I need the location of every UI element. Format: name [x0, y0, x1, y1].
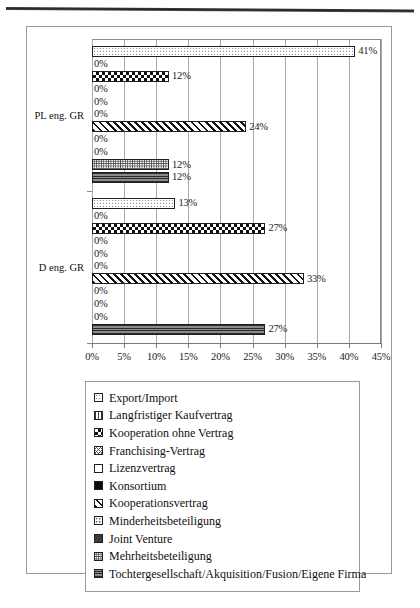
bar[interactable] [92, 71, 169, 82]
bar-row: 0% [92, 311, 381, 322]
legend-item[interactable]: Kooperationsvertrag [94, 495, 353, 513]
category-axis-tick [87, 191, 92, 192]
x-axis-tick-label: 0% [85, 351, 99, 362]
legend-item[interactable]: Konsortium [94, 477, 353, 495]
bar-row: 0% [92, 96, 381, 107]
bar-row: 12% [92, 71, 381, 82]
bar-row: 0% [92, 299, 381, 310]
legend-item[interactable]: Kooperation ohne Vertrag [94, 424, 353, 442]
x-axis-tick [92, 343, 93, 348]
bar-row: 12% [92, 172, 381, 183]
chart-figure-frame: 0%5%10%15%20%25%30%35%40%45% PL eng. GRD… [26, 26, 392, 574]
x-axis-tick [188, 343, 189, 348]
bar-row: 33% [92, 273, 381, 284]
legend-swatch-icon [94, 393, 103, 402]
legend-swatch-icon [94, 428, 103, 437]
legend-swatch-icon [94, 534, 103, 543]
legend-item[interactable]: Export/Import [94, 389, 353, 407]
x-axis-tick [349, 343, 350, 348]
bar-row: 0% [92, 58, 381, 69]
legend-item-label: Tochtergesellschaft/Akquisition/Fusion/E… [109, 568, 366, 580]
legend-item[interactable]: Tochtergesellschaft/Akquisition/Fusion/E… [94, 565, 353, 583]
legend-item-label: Langfristiger Kaufvertrag [109, 409, 233, 421]
legend-swatch-icon [94, 499, 103, 508]
legend-item[interactable]: Minderheitsbeteiligung [94, 512, 353, 530]
value-axis-line [92, 343, 382, 344]
legend-item[interactable]: Langfristiger Kaufvertrag [94, 407, 353, 425]
bar-row: 27% [92, 324, 381, 335]
x-axis-tick-label: 10% [147, 351, 166, 362]
x-axis-tick-label: 15% [179, 351, 198, 362]
bar-value-label: 0% [94, 260, 108, 271]
x-axis-tick-label: 25% [243, 351, 262, 362]
bar[interactable] [92, 172, 169, 183]
bar-row: 27% [92, 223, 381, 234]
bar-row: 41% [92, 46, 381, 57]
bar-value-label: 0% [94, 58, 108, 69]
legend-item-label: Franchising-Vertrag [109, 445, 205, 457]
category-label: D eng. GR [39, 262, 92, 273]
bar-row: 12% [92, 159, 381, 170]
legend-item[interactable]: Mehrheitsbeteiligung [94, 547, 353, 565]
legend-item-label: Kooperationsvertrag [109, 497, 208, 509]
bar-row: 0% [92, 109, 381, 120]
bar-value-label: 0% [94, 108, 108, 119]
bar[interactable] [92, 223, 265, 234]
bar[interactable] [92, 46, 355, 57]
bar-value-label: 0% [94, 83, 108, 94]
x-axis-tick [381, 343, 382, 348]
legend-swatch-icon [94, 481, 103, 490]
legend-swatch-icon [94, 552, 103, 561]
bar-value-label: 0% [94, 96, 108, 107]
legend-item[interactable]: Lizenzvertrag [94, 459, 353, 477]
bar-value-label: 27% [268, 223, 287, 234]
bar-value-label: 0% [94, 298, 108, 309]
x-axis-tick-label: 35% [307, 351, 326, 362]
bar-value-label: 0% [94, 248, 108, 259]
bar-value-label: 12% [172, 71, 191, 82]
legend-item[interactable]: Joint Venture [94, 530, 353, 548]
bar-value-label: 12% [172, 159, 191, 170]
bar-row: 0% [92, 286, 381, 297]
plot-wrapper: 0%5%10%15%20%25%30%35%40%45% PL eng. GRD… [27, 31, 393, 361]
bar-row: 0% [92, 84, 381, 95]
legend-swatch-icon [94, 446, 103, 455]
category-axis-tick [87, 343, 92, 344]
bar-value-label: 24% [249, 121, 268, 132]
bar-row: 0% [92, 261, 381, 272]
bar[interactable] [92, 273, 304, 284]
bar-value-label: 0% [94, 146, 108, 157]
x-axis-tick-label: 20% [211, 351, 230, 362]
x-axis-tick [156, 343, 157, 348]
x-axis-tick-label: 5% [117, 351, 131, 362]
bar-row: 0% [92, 134, 381, 145]
x-axis-tick [124, 343, 125, 348]
x-axis-tick [253, 343, 254, 348]
gridline [381, 39, 382, 343]
legend-item-label: Joint Venture [109, 533, 172, 545]
bar[interactable] [92, 121, 246, 132]
x-axis-tick [220, 343, 221, 348]
bar[interactable] [92, 159, 169, 170]
bar-value-label: 0% [94, 210, 108, 221]
legend-item-label: Minderheitsbeteiligung [109, 515, 221, 527]
x-axis-tick-label: 30% [275, 351, 294, 362]
bar-value-label: 33% [307, 273, 326, 284]
bar-row: 0% [92, 248, 381, 259]
category-label: PL eng. GR [35, 110, 93, 121]
bar-value-label: 0% [94, 134, 108, 145]
bar-row: 13% [92, 198, 381, 209]
bar-value-label: 13% [178, 197, 197, 208]
legend-swatch-icon [94, 464, 103, 473]
bar-value-label: 12% [172, 171, 191, 182]
bar[interactable] [92, 198, 175, 209]
bar-value-label: 0% [94, 311, 108, 322]
bar-value-label: 0% [94, 235, 108, 246]
legend-item[interactable]: Franchising-Vertrag [94, 442, 353, 460]
bar-value-label: 0% [94, 286, 108, 297]
legend-swatch-icon [94, 411, 103, 420]
bar[interactable] [92, 324, 265, 335]
legend-item-label: Export/Import [109, 392, 178, 404]
legend-swatch-icon [94, 569, 103, 578]
x-axis-tick-label: 45% [372, 351, 391, 362]
